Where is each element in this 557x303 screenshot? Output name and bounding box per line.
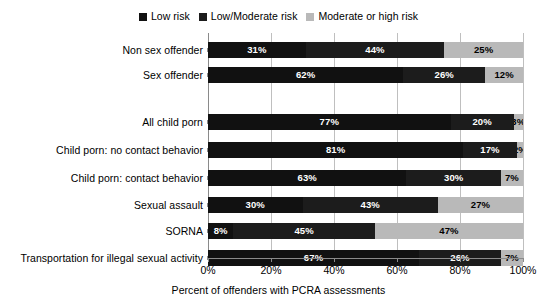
legend-swatch-low-moderate-risk bbox=[199, 13, 207, 21]
category-label: Sex offender bbox=[0, 69, 203, 81]
bar-segment-value: 30% bbox=[246, 200, 265, 210]
category-label: All child porn bbox=[0, 116, 203, 128]
x-axis-tick-label: 80% bbox=[449, 264, 470, 276]
x-axis-tick bbox=[397, 258, 398, 262]
bar-segment: 44% bbox=[306, 42, 445, 58]
bar-segment-value: 20% bbox=[472, 117, 491, 127]
legend-label-low-risk: Low risk bbox=[151, 11, 190, 22]
bar-segment: 47% bbox=[375, 223, 523, 239]
bar-segment: 62% bbox=[208, 67, 403, 83]
x-axis-tick bbox=[523, 258, 524, 262]
x-axis-line bbox=[208, 258, 524, 259]
bar-row: 31%44%25% bbox=[208, 42, 523, 58]
bar-row: 62%26%12% bbox=[208, 67, 523, 83]
bar-segment-value: 30% bbox=[444, 173, 463, 183]
chart-legend: Low risk Low/Moderate risk Moderate or h… bbox=[0, 11, 557, 22]
bar-segment: 12% bbox=[485, 67, 523, 83]
legend-swatch-low-risk bbox=[139, 13, 147, 21]
category-label: Transportation for illegal sexual activi… bbox=[0, 252, 203, 264]
x-axis-tick-label: 100% bbox=[510, 264, 537, 276]
bar-segment-value: 7% bbox=[505, 173, 519, 183]
bar-segment-value: 77% bbox=[320, 117, 339, 127]
bar-segment-value: 8% bbox=[214, 226, 228, 236]
legend-swatch-moderate-high-risk bbox=[306, 13, 314, 21]
bar-segment-value: 26% bbox=[435, 70, 454, 80]
bar-row: 63%30%7% bbox=[208, 170, 523, 186]
category-label: Non sex offender bbox=[0, 44, 203, 56]
bar-row: 77%20%3% bbox=[208, 114, 523, 130]
bar-segment: 43% bbox=[303, 197, 438, 213]
x-axis-tick bbox=[208, 258, 209, 262]
legend-item-moderate-high-risk: Moderate or high risk bbox=[306, 11, 418, 22]
legend-label-moderate-high-risk: Moderate or high risk bbox=[318, 11, 418, 22]
bar-segment: 31% bbox=[208, 42, 306, 58]
legend-label-low-moderate-risk: Low/Moderate risk bbox=[211, 11, 298, 22]
bar-row: 8%45%47% bbox=[208, 223, 523, 239]
legend-item-low-moderate-risk: Low/Moderate risk bbox=[199, 11, 298, 22]
category-label: SORNA bbox=[0, 225, 203, 237]
bar-segment: 30% bbox=[406, 170, 501, 186]
bar-segment: 17% bbox=[463, 142, 517, 158]
bar-segment: 45% bbox=[233, 223, 375, 239]
x-axis-tick-label: 40% bbox=[323, 264, 344, 276]
bar-segment-value: 27% bbox=[471, 200, 490, 210]
bar-segment-value: 3% bbox=[514, 117, 523, 127]
bar-segment-value: 2% bbox=[517, 145, 523, 155]
bar-segment: 77% bbox=[208, 114, 451, 130]
bar-segment: 7% bbox=[501, 170, 523, 186]
category-axis-labels: Non sex offenderSex offenderAll child po… bbox=[0, 33, 203, 258]
stacked-bar-chart: Low risk Low/Moderate risk Moderate or h… bbox=[0, 0, 557, 303]
bar-segment-value: 43% bbox=[361, 200, 380, 210]
x-axis-tick-label: 20% bbox=[260, 264, 281, 276]
bar-segment: 81% bbox=[208, 142, 463, 158]
bar-segment-value: 25% bbox=[474, 45, 493, 55]
bar-segment: 63% bbox=[208, 170, 406, 186]
category-label: Sexual assault bbox=[0, 199, 203, 211]
bar-segment-value: 44% bbox=[365, 45, 384, 55]
bar-segment-value: 31% bbox=[247, 45, 266, 55]
bar-segment-value: 63% bbox=[298, 173, 317, 183]
plot-wrapper: Non sex offenderSex offenderAll child po… bbox=[0, 33, 557, 258]
bar-segment: 2% bbox=[517, 142, 523, 158]
x-axis-tick-label: 60% bbox=[386, 264, 407, 276]
plot-area: 31%44%25%62%26%12%77%20%3%81%17%2%63%30%… bbox=[208, 33, 523, 258]
bar-segment-value: 17% bbox=[480, 145, 499, 155]
bar-segment: 3% bbox=[514, 114, 523, 130]
category-label: Child porn: contact behavior bbox=[0, 172, 203, 184]
bar-segment: 8% bbox=[208, 223, 233, 239]
legend-item-low-risk: Low risk bbox=[139, 11, 190, 22]
x-axis-tick bbox=[271, 258, 272, 262]
bar-segment-value: 47% bbox=[439, 226, 458, 236]
x-axis-tick bbox=[460, 258, 461, 262]
x-axis-tick-label: 0% bbox=[200, 264, 215, 276]
bar-segment: 30% bbox=[208, 197, 303, 213]
bar-segment: 26% bbox=[403, 67, 485, 83]
category-label: Child porn: no contact behavior bbox=[0, 144, 203, 156]
bar-segment: 20% bbox=[451, 114, 514, 130]
bar-segment: 25% bbox=[444, 42, 523, 58]
bar-segment-value: 81% bbox=[326, 145, 345, 155]
bar-row: 30%43%27% bbox=[208, 197, 523, 213]
bar-row: 81%17%2% bbox=[208, 142, 523, 158]
bar-segment: 27% bbox=[438, 197, 523, 213]
bar-segment-value: 62% bbox=[296, 70, 315, 80]
bar-segment-value: 12% bbox=[494, 70, 513, 80]
x-axis-title: Percent of offenders with PCRA assessmen… bbox=[0, 284, 557, 296]
gridline bbox=[523, 33, 524, 258]
bar-segment-value: 45% bbox=[294, 226, 313, 236]
x-axis-tick bbox=[334, 258, 335, 262]
